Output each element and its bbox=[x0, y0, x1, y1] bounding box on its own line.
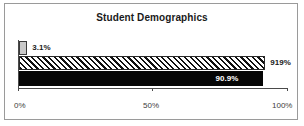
bar-label-series-1: 3.1% bbox=[32, 43, 50, 52]
x-axis-line bbox=[18, 88, 288, 89]
chart-title: Student Demographics bbox=[0, 12, 304, 23]
x-axis-label-50: 50% bbox=[143, 101, 159, 110]
plot-area: 3.1% 919% 90.9% bbox=[19, 40, 287, 88]
bar-series-1[interactable] bbox=[19, 41, 27, 55]
x-axis-tick-100 bbox=[287, 88, 288, 91]
x-axis-label-0: 0% bbox=[14, 101, 26, 110]
bar-label-series-3: 90.9% bbox=[216, 74, 239, 83]
bar-label-series-2: 919% bbox=[270, 58, 290, 67]
x-axis-tick-0 bbox=[18, 88, 19, 91]
x-axis-label-100: 100% bbox=[272, 101, 292, 110]
bar-series-2[interactable] bbox=[19, 56, 265, 70]
chart-container: Student Demographics 3.1% 919% 90.9% 0% … bbox=[0, 0, 304, 126]
x-axis-tick-50 bbox=[152, 88, 153, 91]
